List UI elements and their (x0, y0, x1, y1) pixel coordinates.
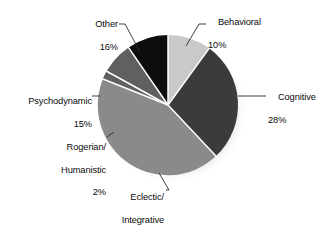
pie-label-rogerian-line2: Humanistic (61, 165, 106, 175)
pie-label-cognitive: Cognitive 28% (268, 81, 316, 148)
pie-label-cognitive-text: Cognitive (278, 92, 316, 102)
pie-label-eclectic-line1: Eclectic/ (130, 192, 164, 202)
pie-label-other-percent: 16% (68, 42, 118, 53)
pie-label-eclectic-line2: Integrative (122, 215, 164, 225)
pie-label-behavioral-text: Behavioral (218, 17, 261, 27)
pie-label-psychodynamic-percent: 15% (4, 119, 92, 130)
pie-label-cognitive-percent: 28% (268, 115, 316, 126)
pie-label-behavioral: Behavioral 10% (208, 6, 261, 73)
pie-label-rogerian-percent: 2% (30, 187, 106, 198)
pie-label-other-text: Other (95, 19, 118, 29)
pie-label-psychodynamic: Psychodynamic 15% (4, 85, 92, 152)
pie-label-other: Other 16% (68, 8, 118, 75)
pie-chart-figure: Behavioral 10% Cognitive 28% Eclectic/ I… (0, 0, 318, 232)
pie-label-psychodynamic-text: Psychodynamic (28, 96, 92, 106)
pie-label-behavioral-percent: 10% (208, 40, 261, 51)
